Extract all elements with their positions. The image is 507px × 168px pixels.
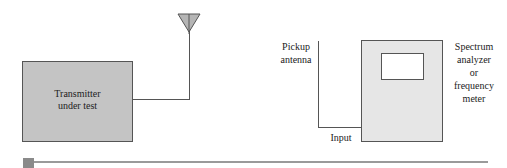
input-cable [318, 127, 361, 128]
pickup-label-line1: Pickup [276, 40, 316, 53]
transmitter-label-line2: under test [22, 100, 133, 112]
analyzer-label-line3: or [444, 66, 504, 79]
transmitter-label-line1: Transmitter [22, 88, 133, 100]
pickup-label-line2: antenna [276, 53, 316, 66]
analyzer-label: Spectrum analyzer or frequency meter [444, 40, 504, 105]
analyzer-label-line4: frequency [444, 79, 504, 92]
antenna-icon [176, 12, 202, 36]
rule-marker [23, 158, 34, 168]
pickup-antenna-label: Pickup antenna [276, 40, 316, 66]
transmitter-label: Transmitter under test [22, 88, 133, 112]
input-label: Input [326, 131, 356, 144]
analyzer-label-line2: analyzer [444, 53, 504, 66]
analyzer-screen [381, 53, 424, 80]
analyzer-label-line5: meter [444, 92, 504, 105]
bottom-rule [34, 161, 488, 163]
analyzer-label-line1: Spectrum [444, 40, 504, 53]
transmitter-feed-vertical [189, 28, 190, 100]
transmitter-feed-horizontal [133, 99, 190, 100]
pickup-antenna-wire [318, 41, 319, 128]
